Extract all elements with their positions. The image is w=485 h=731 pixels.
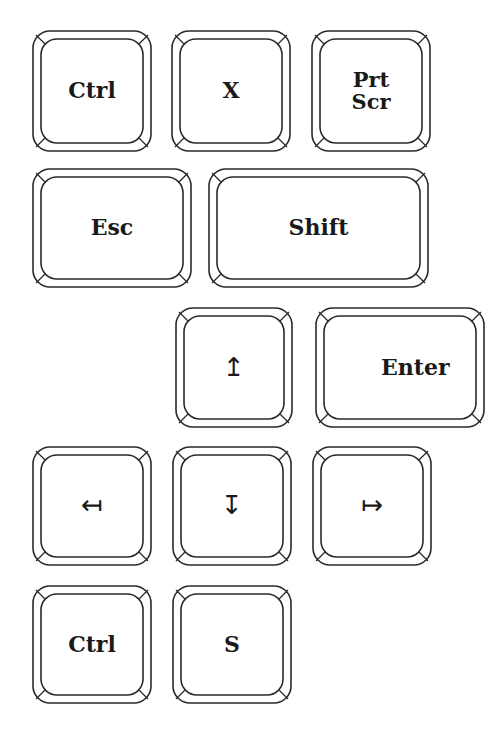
key-label: Ctrl	[32, 30, 152, 152]
arrow-right-icon: ↦	[312, 446, 432, 566]
key-prtscr[interactable]: Prt Scr	[311, 30, 431, 152]
key-label: Prt Scr	[311, 30, 431, 152]
key-label: Shift	[208, 168, 429, 288]
key-label: Enter	[315, 307, 485, 428]
key-label: Ctrl	[32, 585, 152, 704]
key-ctrl-2[interactable]: Ctrl	[32, 585, 152, 704]
key-x[interactable]: X	[171, 30, 291, 152]
key-right[interactable]: ↦	[312, 446, 432, 566]
arrow-up-icon: ↥	[175, 307, 293, 428]
key-label: X	[171, 30, 291, 152]
arrow-down-icon: ↧	[172, 446, 292, 566]
key-enter[interactable]: Enter	[315, 307, 485, 428]
key-left[interactable]: ↤	[32, 446, 152, 566]
key-esc[interactable]: Esc	[32, 168, 192, 288]
key-shift[interactable]: Shift	[208, 168, 429, 288]
key-down[interactable]: ↧	[172, 446, 292, 566]
key-ctrl-1[interactable]: Ctrl	[32, 30, 152, 152]
key-s[interactable]: S	[172, 585, 292, 704]
key-label: Esc	[32, 168, 192, 288]
key-up[interactable]: ↥	[175, 307, 293, 428]
arrow-left-icon: ↤	[32, 446, 152, 566]
key-label: S	[172, 585, 292, 704]
